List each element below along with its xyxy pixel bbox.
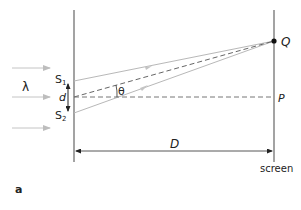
rays <box>74 41 274 113</box>
slit1-label: S1 <box>55 73 66 87</box>
slit2-label: S2 <box>55 109 66 123</box>
point-p-label: P <box>278 92 285 105</box>
angle-label: θ <box>118 85 125 98</box>
wavelength-label: λ <box>22 80 29 94</box>
incident-light-arrows <box>12 68 50 128</box>
double-slit-diagram: λ S1 d S2 θ Q P D screen a <box>0 0 301 210</box>
point-q-label: Q <box>281 35 290 49</box>
panel-label: a <box>15 183 22 196</box>
screen-label: screen <box>260 163 293 174</box>
theta-arc <box>116 85 117 97</box>
center-to-q-dashed <box>74 41 274 97</box>
distance-label: D <box>170 137 179 151</box>
point-q-dot <box>271 38 276 43</box>
slit-separation-label: d <box>59 91 67 104</box>
